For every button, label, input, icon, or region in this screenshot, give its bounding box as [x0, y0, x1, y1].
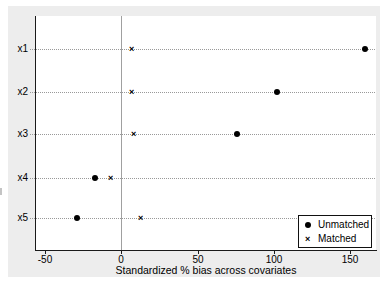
legend-label-unmatched: Unmatched — [318, 219, 369, 231]
matched-marker-x3: × — [131, 130, 136, 139]
unmatched-marker-x1 — [362, 46, 368, 52]
matched-marker-x2: × — [129, 88, 134, 97]
y-category-label-x4: x4 — [0, 172, 28, 184]
y-category-label-x5: x5 — [0, 212, 28, 224]
legend: Unmatched × Matched — [298, 215, 372, 248]
x-axis-line — [35, 250, 377, 251]
legend-x-marker-icon: × — [305, 235, 318, 244]
y-category-label-x1: x1 — [0, 43, 28, 55]
legend-circle-marker-icon — [305, 222, 318, 228]
unmatched-marker-x2 — [274, 89, 280, 95]
unmatched-marker-x5 — [74, 215, 80, 221]
unmatched-marker-x4 — [92, 175, 98, 181]
matched-marker-x4: × — [108, 174, 113, 183]
y-category-label-x2: x2 — [0, 86, 28, 98]
matched-marker-x5: × — [138, 214, 143, 223]
grid-line-x4 — [30, 178, 375, 179]
y-axis-line — [35, 16, 36, 251]
grid-line-x1 — [30, 49, 375, 50]
legend-item-unmatched: Unmatched — [305, 218, 371, 232]
matched-marker-x1: × — [129, 45, 134, 54]
chart-canvas: x1x2x3x4x5-50050100150××××× Standardized… — [0, 0, 389, 295]
grid-line-x2 — [30, 92, 375, 93]
zero-reference-line — [121, 16, 122, 250]
grid-line-x3 — [30, 134, 375, 135]
y-category-label-x3: x3 — [0, 128, 28, 140]
x-axis-title: Standardized % bias across covariates — [36, 264, 376, 276]
screen-edge-artifact — [0, 188, 2, 195]
legend-label-matched: Matched — [318, 233, 356, 245]
unmatched-marker-x3 — [234, 131, 240, 137]
legend-item-matched: × Matched — [305, 232, 371, 246]
